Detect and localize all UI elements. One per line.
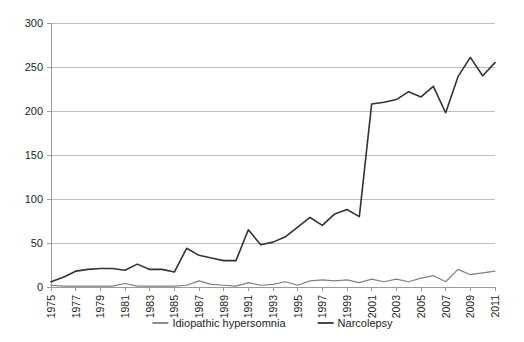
y-tick-label: 0 [37,281,43,293]
x-tick-label: 1999 [341,295,353,319]
chart-legend: Idiopathic hypersomniaNarcolepsy [152,317,393,329]
x-tick-label: 1995 [292,295,304,319]
x-tick-label: 1985 [168,295,180,319]
legend-label-1: Idiopathic hypersomnia [172,317,286,329]
y-tick-label: 150 [25,149,43,161]
x-tick-label: 2011 [489,295,501,318]
x-tick-label: 2007 [440,295,452,319]
x-tick-label: 1975 [45,295,57,319]
x-tick-label: 1977 [70,295,82,319]
x-tick-label: 2003 [390,295,402,319]
chart-container: 050100150200250300 197519771979198119831… [0,0,524,342]
x-tick-label: 1991 [242,295,254,319]
y-tick-label: 200 [25,105,43,117]
y-tick-label: 50 [31,237,43,249]
x-tick-label: 2009 [464,295,476,319]
x-tick-label: 2005 [415,295,427,319]
x-tick-label: 1983 [144,295,156,319]
x-tick-label: 1989 [218,295,230,319]
x-tick-label: 1987 [193,295,205,319]
x-tick-label: 1993 [267,295,279,319]
line-chart: 050100150200250300 197519771979198119831… [0,0,524,342]
legend-label-2: Narcolepsy [338,317,394,329]
y-tick-label: 300 [25,17,43,29]
x-tick-label: 1979 [94,295,106,319]
x-tick-label: 1981 [119,295,131,319]
x-tick-label: 2001 [366,295,378,319]
x-tick-label: 1997 [316,295,328,319]
y-tick-label: 100 [25,193,43,205]
y-tick-label: 250 [25,61,43,73]
